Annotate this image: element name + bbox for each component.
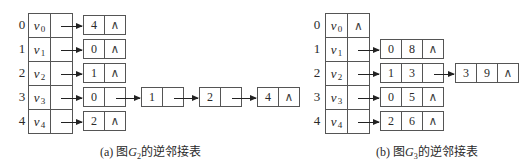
vertex-index: 1 bbox=[311, 37, 323, 61]
vertex-name: v bbox=[331, 42, 337, 58]
vertex-name: v bbox=[331, 90, 337, 106]
next-pointer-field: ∧ bbox=[498, 64, 518, 82]
arrow-icon bbox=[358, 98, 379, 99]
weight-field: 9 bbox=[477, 64, 498, 82]
caption-suffix: 的逆邻接表 bbox=[141, 145, 201, 159]
null-pointer-icon: ∧ bbox=[285, 90, 294, 104]
vertex-cell: v1 bbox=[325, 37, 348, 62]
adjvex-field: 4 bbox=[258, 88, 279, 106]
vertex-subscript: 0 bbox=[41, 24, 46, 34]
vertex-subscript: 4 bbox=[41, 120, 46, 130]
arrow-icon bbox=[61, 122, 82, 123]
vertex-index: 0 bbox=[311, 13, 323, 37]
vertex-cell: v0 bbox=[325, 13, 348, 38]
vertex-cell: v2 bbox=[28, 61, 51, 86]
adjvex-field: 2 bbox=[381, 112, 402, 130]
vertex-subscript: 0 bbox=[338, 24, 343, 34]
arrow-icon bbox=[61, 50, 82, 51]
null-pointer-icon: ∧ bbox=[429, 90, 438, 104]
vertex-name: v bbox=[34, 114, 40, 130]
vertex-name: v bbox=[331, 18, 337, 34]
caption-graph-name: G bbox=[405, 145, 414, 159]
adjvex-field: 0 bbox=[381, 40, 402, 58]
next-pointer-field: ∧ bbox=[423, 88, 443, 106]
arrow-icon bbox=[358, 74, 379, 75]
adjvex-field: 1 bbox=[142, 88, 163, 106]
weight-field: 5 bbox=[402, 88, 423, 106]
first-arc-pointer-cell: ∧ bbox=[347, 13, 370, 38]
vertex-name: v bbox=[331, 114, 337, 130]
arc-node: 26∧ bbox=[380, 111, 444, 131]
null-pointer-icon: ∧ bbox=[429, 114, 438, 128]
vertex-cell: v3 bbox=[28, 85, 51, 110]
vertex-index: 3 bbox=[311, 85, 323, 109]
arc-node: 2∧ bbox=[83, 111, 126, 131]
weight-field: 6 bbox=[402, 112, 423, 130]
vertex-cell: v1 bbox=[28, 37, 51, 62]
vertex-name: v bbox=[34, 90, 40, 106]
arc-node: 4∧ bbox=[257, 87, 300, 107]
vertex-name: v bbox=[34, 42, 40, 58]
null-pointer-icon: ∧ bbox=[111, 114, 120, 128]
adjvex-field: 1 bbox=[84, 64, 105, 82]
vertex-index: 3 bbox=[16, 85, 28, 109]
next-pointer-field: ∧ bbox=[423, 112, 443, 130]
figure-caption: (b) 图G3的逆邻接表 bbox=[376, 142, 478, 159]
arrow-icon bbox=[116, 98, 141, 99]
vertex-subscript: 4 bbox=[338, 120, 343, 130]
vertex-subscript: 3 bbox=[338, 96, 343, 106]
adjvex-field: 2 bbox=[84, 112, 105, 130]
weight-field: 3 bbox=[402, 64, 423, 82]
caption-graph-name: G bbox=[128, 145, 137, 159]
adjvex-field: 0 bbox=[84, 40, 105, 58]
arc-node: 1∧ bbox=[83, 63, 126, 83]
vertex-subscript: 3 bbox=[41, 96, 46, 106]
null-pointer-icon: ∧ bbox=[429, 42, 438, 56]
next-pointer-field: ∧ bbox=[105, 64, 125, 82]
adjvex-field: 2 bbox=[200, 88, 221, 106]
arrow-icon bbox=[358, 50, 379, 51]
arrow-icon bbox=[61, 26, 82, 27]
vertex-index: 4 bbox=[311, 109, 323, 133]
figure-caption: (a) 图G2的逆邻接表 bbox=[100, 142, 201, 159]
arc-node: 05∧ bbox=[380, 87, 444, 107]
arrow-icon bbox=[174, 98, 199, 99]
vertex-cell: v3 bbox=[325, 85, 348, 110]
weight-field: 8 bbox=[402, 40, 423, 58]
next-pointer-field: ∧ bbox=[105, 112, 125, 130]
arrow-icon bbox=[434, 74, 455, 75]
adjvex-field: 4 bbox=[84, 16, 105, 34]
arc-node: 4∧ bbox=[83, 15, 126, 35]
vertex-index: 2 bbox=[311, 61, 323, 85]
vertex-subscript: 1 bbox=[41, 48, 46, 58]
null-pointer-icon: ∧ bbox=[504, 66, 513, 80]
vertex-name: v bbox=[331, 66, 337, 82]
next-pointer-field: ∧ bbox=[105, 16, 125, 34]
next-pointer-field: ∧ bbox=[279, 88, 299, 106]
arrow-icon bbox=[358, 122, 379, 123]
next-pointer-field: ∧ bbox=[105, 40, 125, 58]
next-pointer-field: ∧ bbox=[423, 40, 443, 58]
vertex-index: 2 bbox=[16, 61, 28, 85]
null-pointer-icon: ∧ bbox=[111, 18, 120, 32]
adjvex-field: 3 bbox=[456, 64, 477, 82]
null-pointer-icon: ∧ bbox=[354, 19, 363, 33]
arrow-icon bbox=[61, 74, 82, 75]
vertex-index: 4 bbox=[16, 109, 28, 133]
vertex-cell: v4 bbox=[325, 109, 348, 134]
vertex-name: v bbox=[34, 18, 40, 34]
arc-node: 0∧ bbox=[83, 39, 126, 59]
adjvex-field: 0 bbox=[84, 88, 105, 106]
adjvex-field: 1 bbox=[381, 64, 402, 82]
vertex-subscript: 2 bbox=[338, 72, 343, 82]
vertex-cell: v0 bbox=[28, 13, 51, 38]
vertex-name: v bbox=[34, 66, 40, 82]
caption-suffix: 的逆邻接表 bbox=[418, 145, 478, 159]
vertex-subscript: 2 bbox=[41, 72, 46, 82]
vertex-index: 0 bbox=[16, 13, 28, 37]
arrow-icon bbox=[61, 98, 82, 99]
caption-prefix: (b) 图 bbox=[376, 145, 405, 159]
vertex-index: 1 bbox=[16, 37, 28, 61]
null-pointer-icon: ∧ bbox=[111, 66, 120, 80]
vertex-cell: v4 bbox=[28, 109, 51, 134]
